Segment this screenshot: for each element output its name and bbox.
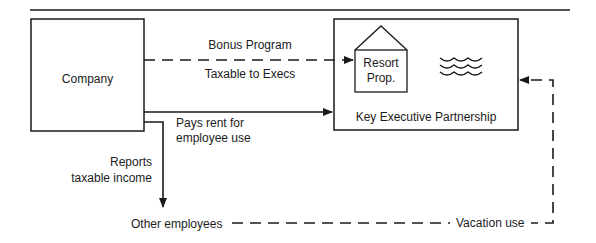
taxable-to-execs-label: Taxable to Execs bbox=[170, 67, 330, 81]
rent-label-line1: Pays rent for bbox=[176, 116, 244, 130]
resort-label-line1: Resort bbox=[355, 56, 407, 70]
water-waves-icon bbox=[440, 58, 482, 75]
reports-label-line2: taxable income bbox=[30, 171, 152, 185]
vacation-arrow bbox=[520, 80, 553, 223]
other-employees-label: Other employees bbox=[131, 217, 222, 231]
partnership-label: Key Executive Partnership bbox=[334, 110, 518, 124]
company-label: Company bbox=[31, 72, 144, 86]
reports-label-line1: Reports bbox=[30, 155, 152, 169]
vacation-label: Vacation use bbox=[450, 216, 531, 230]
rent-label-line2: employee use bbox=[176, 131, 251, 145]
resort-label-line2: Prop. bbox=[355, 71, 407, 85]
bonus-label: Bonus Program bbox=[170, 38, 330, 52]
